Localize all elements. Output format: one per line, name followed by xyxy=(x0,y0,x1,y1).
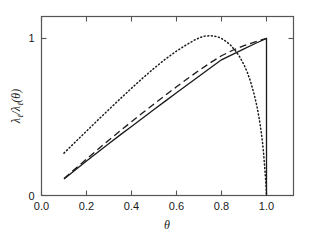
svg-text:λℓ/λℓ(θ): λℓ/λℓ(θ) xyxy=(9,89,25,124)
x-tick-label: 1.0 xyxy=(259,200,274,212)
data-series-group xyxy=(64,36,267,196)
x-axis-label: θ xyxy=(164,218,170,232)
series-line-dotted xyxy=(64,36,267,196)
x-tick-label: 0.4 xyxy=(124,200,139,212)
plot-canvas: 0.00.20.40.60.81.0 01 θ λℓ/λℓ(θ) xyxy=(0,0,311,237)
x-tick-label: 0.6 xyxy=(169,200,184,212)
x-tick-label: 0.0 xyxy=(34,200,49,212)
x-tick-label: 0.8 xyxy=(214,200,229,212)
y-tick-label: 0 xyxy=(28,190,34,202)
y-tick-label: 1 xyxy=(28,32,34,44)
x-tick-label: 0.2 xyxy=(79,200,94,212)
y-axis-label: λℓ/λℓ(θ) xyxy=(9,89,25,124)
chart-figure: 0.00.20.40.60.81.0 01 θ λℓ/λℓ(θ) xyxy=(0,0,311,237)
y-tick-labels: 01 xyxy=(28,32,34,201)
x-tick-labels: 0.00.20.40.60.81.0 xyxy=(34,200,274,212)
series-line-solid xyxy=(64,38,267,195)
